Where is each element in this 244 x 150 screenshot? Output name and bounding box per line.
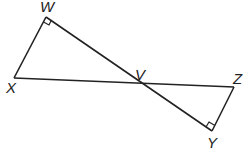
segment-zy (212, 87, 234, 131)
label-z: Z (232, 70, 243, 87)
label-y: Y (207, 134, 218, 150)
segment-wy (46, 17, 212, 131)
label-x: X (5, 79, 17, 96)
segment-xz (14, 78, 234, 87)
segment-wx (14, 17, 46, 78)
label-v: V (135, 66, 147, 83)
geometry-diagram: W X V Z Y (0, 0, 244, 150)
label-w: W (40, 0, 56, 15)
